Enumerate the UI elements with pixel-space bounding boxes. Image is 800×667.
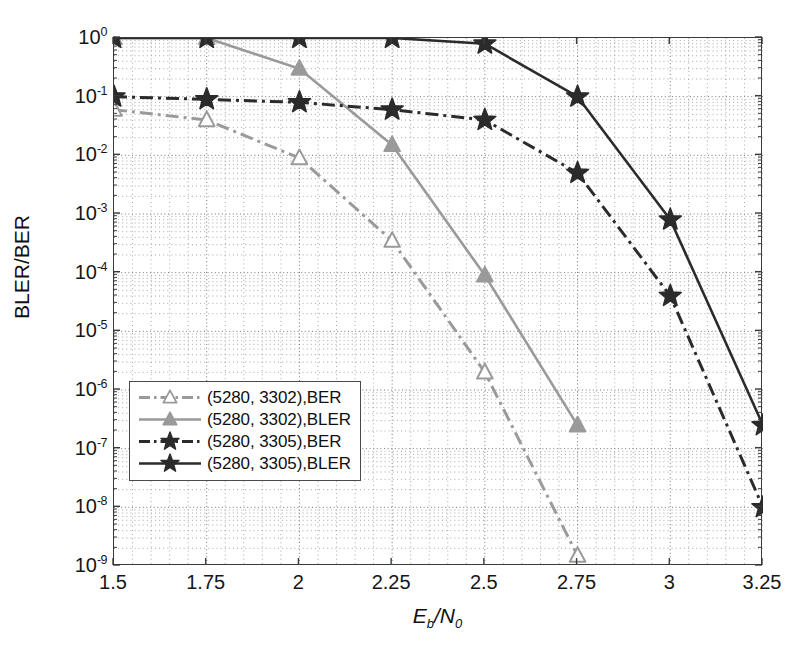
x-axis-title-slash-n: /N — [434, 604, 455, 627]
data-point-marker — [659, 285, 681, 306]
y-tick-label: 10-8 — [75, 495, 107, 519]
data-point-marker — [114, 38, 125, 47]
y-tick-label: 10-7 — [75, 436, 107, 460]
data-point-marker — [288, 38, 310, 47]
legend-item: (5280, 3302),BER — [137, 387, 351, 408]
legend-sample-triangle-icon — [137, 409, 203, 430]
legend-sample-star-icon — [137, 453, 203, 474]
legend-item: (5280, 3305),BER — [137, 431, 351, 452]
legend: (5280, 3302),BER(5280, 3302),BLER(5280, … — [129, 381, 361, 481]
data-point-marker — [752, 414, 763, 435]
data-point-marker — [567, 161, 589, 182]
series-1 — [114, 38, 585, 431]
data-point-marker — [570, 417, 586, 432]
data-point-marker — [381, 98, 403, 119]
y-tick-label: 10-6 — [75, 377, 107, 401]
x-tick-label: 3.25 — [743, 571, 782, 594]
legend-label: (5280, 3302),BER — [203, 388, 341, 408]
data-point-marker — [474, 38, 496, 53]
data-point-marker — [196, 88, 218, 109]
x-tick-label: 3 — [664, 571, 675, 594]
data-point-marker — [570, 547, 586, 562]
legend-item: (5280, 3305),BLER — [137, 453, 351, 474]
data-point-marker — [567, 85, 589, 106]
data-point-marker — [474, 109, 496, 130]
legend-label: (5280, 3305),BLER — [203, 454, 351, 474]
y-axis-title: BLER/BER — [10, 157, 34, 377]
legend-sample-triangle-icon — [137, 387, 203, 408]
legend-label: (5280, 3305),BER — [203, 432, 341, 452]
figure: 10010-110-210-310-410-510-610-710-810-9 … — [0, 0, 800, 667]
x-axis-tick-labels: 1.51.7522.252.52.7533.25 — [113, 571, 762, 603]
y-tick-label: 10-2 — [75, 143, 107, 167]
y-tick-label: 10-5 — [75, 319, 107, 343]
legend-sample-star-icon — [137, 431, 203, 452]
legend-item: (5280, 3302),BLER — [137, 409, 351, 430]
x-tick-label: 1.75 — [186, 571, 225, 594]
legend-label: (5280, 3302),BLER — [203, 410, 351, 430]
plot-area — [113, 37, 762, 565]
data-point-marker — [384, 137, 400, 152]
data-point-marker — [384, 232, 400, 247]
y-tick-label: 100 — [78, 25, 107, 49]
x-axis-title-e: E — [413, 604, 427, 627]
data-series-layer — [114, 38, 763, 566]
x-tick-label: 2 — [293, 571, 304, 594]
x-axis-title-sub-b: b — [427, 616, 434, 631]
x-tick-label: 1.5 — [99, 571, 127, 594]
x-axis-title: Eb/N0 — [113, 604, 762, 631]
y-tick-label: 10-1 — [75, 84, 107, 108]
y-tick-label: 10-3 — [75, 201, 107, 225]
x-axis-title-sub-zero: 0 — [455, 616, 462, 631]
data-point-marker — [288, 91, 310, 112]
x-tick-label: 2.25 — [372, 571, 411, 594]
x-tick-label: 2.5 — [470, 571, 498, 594]
series-0 — [114, 101, 585, 562]
x-tick-label: 2.75 — [557, 571, 596, 594]
y-tick-label: 10-4 — [75, 260, 107, 284]
data-point-marker — [752, 496, 763, 517]
